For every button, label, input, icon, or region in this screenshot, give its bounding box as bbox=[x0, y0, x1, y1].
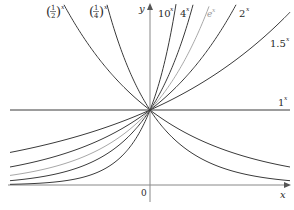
svg-text:1: 1 bbox=[51, 4, 55, 12]
svg-text:2: 2 bbox=[51, 12, 55, 20]
svg-text:x: x bbox=[286, 35, 290, 42]
curve-4-x bbox=[10, 5, 193, 181]
exponential-functions-chart: x y 0 ( 1 2 ) x ( 1 4 ) x 10 x 4 x bbox=[0, 0, 294, 210]
svg-text:x: x bbox=[246, 5, 250, 12]
y-axis-label: y bbox=[138, 3, 145, 14]
svg-text:x: x bbox=[284, 94, 288, 101]
svg-text:x: x bbox=[186, 5, 190, 12]
y-axis-arrow-icon bbox=[147, 3, 153, 10]
label-ten-power-x: 10 x bbox=[158, 5, 174, 19]
svg-text:x: x bbox=[212, 6, 216, 13]
svg-text:1.5: 1.5 bbox=[270, 38, 286, 49]
curve-10-x bbox=[10, 4, 176, 184]
x-axis-label: x bbox=[280, 189, 286, 200]
axes bbox=[8, 3, 291, 202]
label-half-power-x: ( 1 2 ) x bbox=[46, 3, 65, 20]
label-four-power-x: 4 x bbox=[180, 5, 190, 19]
label-two-power-x: 2 x bbox=[239, 5, 250, 19]
x-axis-arrow-icon bbox=[284, 182, 291, 188]
svg-text:1: 1 bbox=[94, 4, 98, 12]
label-one-point-five-power-x: 1.5 x bbox=[270, 35, 290, 49]
svg-text:2: 2 bbox=[239, 8, 245, 19]
svg-text:x: x bbox=[170, 5, 174, 12]
label-quarter-power-x: ( 1 4 ) x bbox=[89, 3, 108, 20]
label-one-power-x: 1 x bbox=[278, 94, 288, 108]
curve-e-x bbox=[10, 6, 209, 175]
origin-label: 0 bbox=[141, 188, 147, 198]
svg-text:10: 10 bbox=[158, 8, 171, 19]
